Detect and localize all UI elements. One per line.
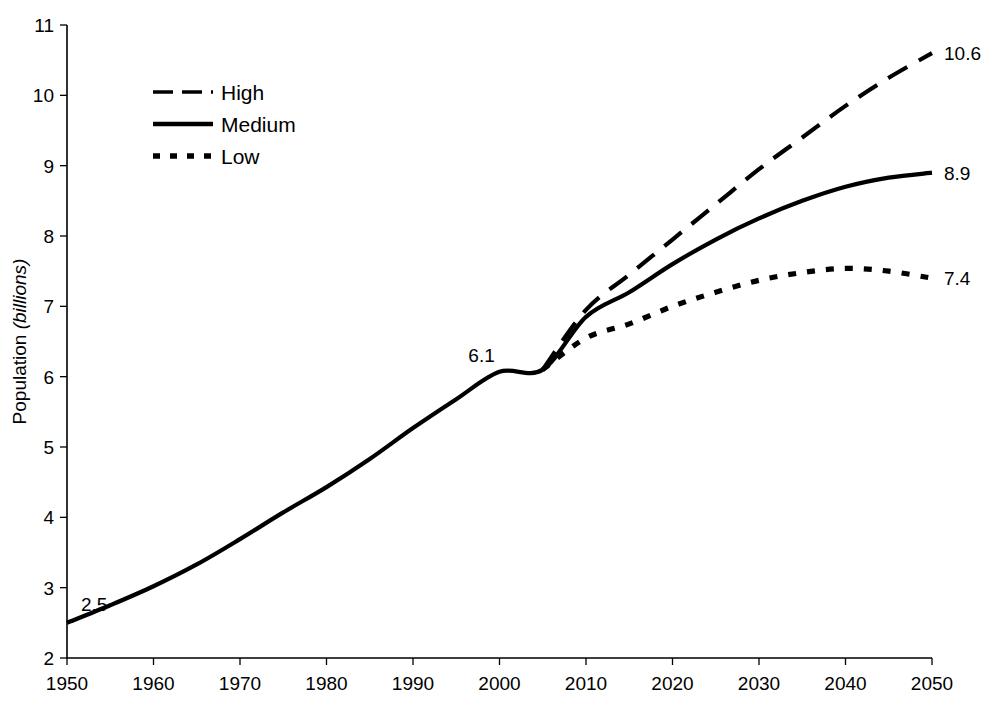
- y-axis-tick-label: 3: [43, 578, 54, 599]
- y-axis-tick-label: 4: [43, 507, 54, 528]
- y-axis-title: Population (billions): [9, 259, 30, 425]
- x-axis-tick-label: 1950: [46, 673, 88, 694]
- end-label-medium: 8.9: [944, 163, 970, 184]
- y-axis-tick-label: 9: [43, 156, 54, 177]
- series-line-medium: [67, 173, 932, 623]
- x-axis-tick-label: 2040: [824, 673, 866, 694]
- y-axis-tick-label: 7: [43, 296, 54, 317]
- chart-canvas: 2345678910111950196019701980199020002010…: [0, 0, 990, 722]
- end-label-high: 10.6: [944, 43, 981, 64]
- x-axis-tick-label: 1980: [305, 673, 347, 694]
- end-label-low: 7.4: [944, 268, 971, 289]
- population-projection-chart: 2345678910111950196019701980199020002010…: [0, 0, 990, 722]
- x-axis-tick-label: 2030: [738, 673, 780, 694]
- y-axis-tick-label: 11: [34, 15, 54, 36]
- y-axis-tick-label: 10: [33, 85, 54, 106]
- y-axis-tick-label: 8: [43, 226, 54, 247]
- y-axis-tick-label: 5: [43, 437, 54, 458]
- legend-label-high: High: [221, 81, 264, 104]
- annotation-start-value: 2.5: [81, 594, 107, 615]
- x-axis-tick-label: 1970: [219, 673, 261, 694]
- x-axis-tick-label: 2020: [651, 673, 693, 694]
- annotation-branch-value: 6.1: [468, 345, 494, 366]
- x-axis-tick-label: 2010: [565, 673, 607, 694]
- series-line-low: [543, 268, 932, 369]
- series-line-high: [543, 53, 932, 370]
- legend-label-low: Low: [221, 145, 260, 168]
- x-axis-tick-label: 1990: [392, 673, 434, 694]
- legend-label-medium: Medium: [221, 113, 296, 136]
- x-axis-tick-label: 2000: [478, 673, 520, 694]
- y-axis-tick-label: 2: [43, 648, 54, 669]
- y-axis-tick-label: 6: [43, 367, 54, 388]
- x-axis-tick-label: 1960: [132, 673, 174, 694]
- x-axis-tick-label: 2050: [911, 673, 953, 694]
